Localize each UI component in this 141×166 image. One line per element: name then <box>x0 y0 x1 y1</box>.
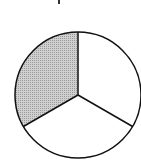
divider-right <box>78 95 133 127</box>
fraction-circle <box>0 0 141 166</box>
